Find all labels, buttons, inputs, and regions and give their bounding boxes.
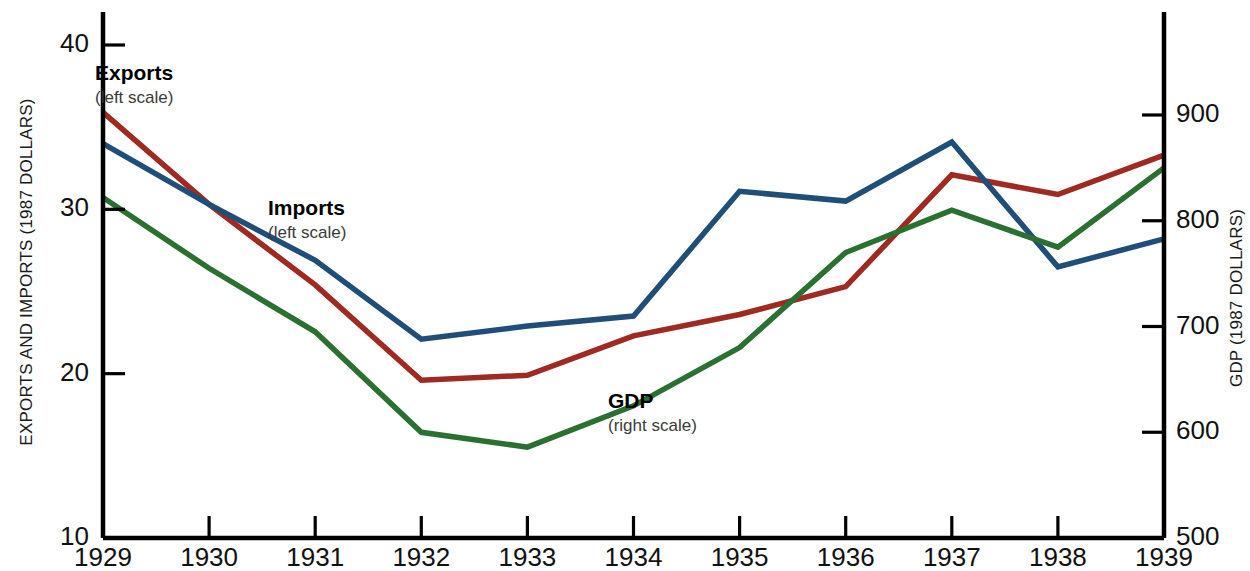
x-tick-label: 1933 [467, 542, 587, 571]
x-tick-label: 1936 [786, 542, 906, 571]
left-tick-label: 30 [29, 192, 89, 223]
series-label-gdp-name: GDP [608, 390, 697, 412]
series-label-exports: Exports (left scale) [95, 62, 173, 108]
series-label-exports-scale: (left scale) [95, 87, 173, 108]
x-tick-label: 1930 [149, 542, 269, 571]
right-tick-label: 900 [1176, 98, 1250, 129]
left-tick-label: 40 [29, 28, 89, 59]
right-tick-label: 800 [1176, 204, 1250, 235]
right-tick-label: 600 [1176, 415, 1250, 446]
series-label-exports-name: Exports [95, 62, 173, 84]
series-label-gdp-scale: (right scale) [608, 415, 697, 436]
left-axis-title: EXPORTS AND IMPORTS (1987 DOLLARS) [17, 37, 37, 507]
series-line-imports [103, 142, 1164, 339]
left-tick-label: 20 [29, 357, 89, 388]
series-line-exports [103, 112, 1164, 380]
chart-canvas [0, 0, 1250, 571]
x-tick-label: 1934 [574, 542, 694, 571]
right-tick-label: 700 [1176, 310, 1250, 341]
series-label-imports-name: Imports [268, 197, 346, 219]
series-label-imports-scale: (left scale) [268, 222, 346, 243]
x-tick-label: 1929 [43, 542, 163, 571]
axis-layer [103, 12, 1164, 538]
x-tick-label: 1932 [361, 542, 481, 571]
x-tick-label: 1931 [255, 542, 375, 571]
chart-figure: EXPORTS AND IMPORTS (1987 DOLLARS) GDP (… [0, 0, 1250, 571]
series-label-gdp: GDP (right scale) [608, 390, 697, 436]
x-tick-label: 1939 [1104, 542, 1224, 571]
x-tick-label: 1937 [892, 542, 1012, 571]
x-tick-label: 1935 [680, 542, 800, 571]
x-tick-label: 1938 [998, 542, 1118, 571]
series-label-imports: Imports (left scale) [268, 197, 346, 243]
